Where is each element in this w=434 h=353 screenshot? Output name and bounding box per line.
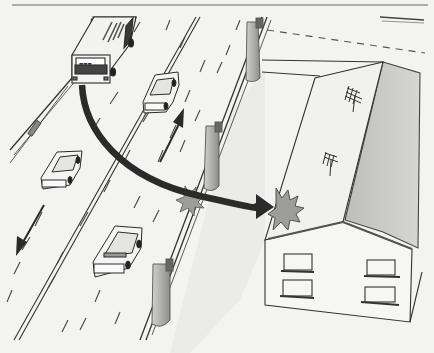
car-lower-lane [93, 226, 142, 277]
property-dashed-line [267, 30, 425, 53]
left-guardrail-post [28, 120, 41, 136]
car-upper-lane [143, 72, 179, 113]
bus: ▬▬▬ [72, 17, 136, 83]
traffic-arrow-down-icon [16, 205, 44, 256]
ground [170, 70, 265, 353]
traffic-arrow-up-icon [160, 108, 184, 162]
accident-illustration: ▬▬▬ [0, 0, 434, 353]
far-road-edge [380, 17, 424, 20]
car-left-lane [41, 151, 82, 189]
